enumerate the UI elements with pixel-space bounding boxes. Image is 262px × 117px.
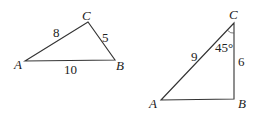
t1-side-ac: 8	[53, 25, 60, 40]
t1-vertex-c: C	[82, 8, 91, 23]
t1-vertex-b: B	[116, 58, 124, 73]
t1-vertex-a: A	[13, 57, 22, 72]
angle-arc-icon	[227, 30, 234, 33]
t2-side-ac: 9	[191, 49, 198, 64]
t1-side-cb: 5	[102, 30, 109, 45]
t2-vertex-b: B	[238, 96, 246, 111]
t2-angle-c: 45°	[215, 40, 233, 55]
triangle-2-shape	[161, 23, 234, 100]
triangle-2: A C B 9 6 45°	[148, 7, 246, 111]
triangle-1: A C B 8 5 10	[13, 8, 124, 77]
figure: A C B 8 5 10 A C B 9 6 45°	[0, 0, 262, 117]
t1-side-ab: 10	[64, 62, 77, 77]
t2-vertex-a: A	[148, 96, 157, 111]
t2-vertex-c: C	[229, 7, 238, 22]
t2-side-cb: 6	[238, 54, 245, 69]
